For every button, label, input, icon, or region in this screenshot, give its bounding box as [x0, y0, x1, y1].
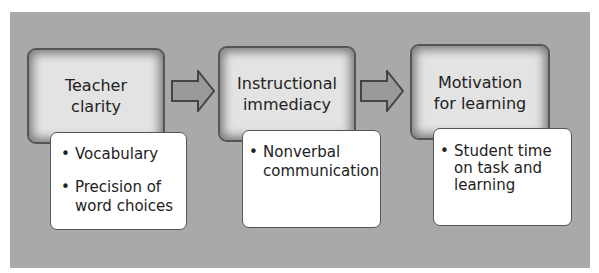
stage-instructional-immediacy: Instructional immediacy	[218, 46, 356, 142]
detail-item: •Precision of word choices	[61, 178, 186, 216]
bullet-icon: •	[440, 143, 449, 160]
detail-item: •Nonverbal communication	[249, 143, 380, 181]
stage-title: Teacher clarity	[29, 75, 163, 117]
bullet-icon: •	[61, 145, 70, 164]
detail-item: •Student time on task and learning	[440, 143, 571, 194]
bullet-icon: •	[61, 178, 70, 197]
arrow-right-icon	[171, 70, 215, 112]
detail-box-instructional-immediacy: •Nonverbal communication	[242, 130, 381, 228]
stage-motivation-for-learning: Motivation for learning	[410, 44, 550, 140]
stage-title: Motivation for learning	[412, 72, 548, 114]
bullet-icon: •	[249, 143, 258, 162]
arrow-right-icon	[360, 70, 404, 112]
stage-teacher-clarity: Teacher clarity	[27, 48, 165, 144]
detail-box-teacher-clarity: •Vocabulary •Precision of word choices	[50, 132, 187, 230]
detail-box-motivation-for-learning: •Student time on task and learning	[433, 128, 572, 226]
detail-item: •Vocabulary	[61, 145, 186, 164]
stage-title: Instructional immediacy	[220, 73, 354, 115]
